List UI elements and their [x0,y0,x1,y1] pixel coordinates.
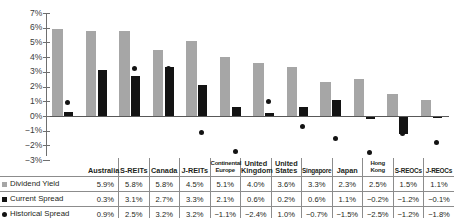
y-axis-tick-mark [43,42,50,43]
table-cell: 3.3% [302,177,333,192]
bar-group [349,0,383,158]
y-axis-tick-labels: 7%6%5%4%3%2%1%0%−1%−2%−3% [12,0,42,158]
values-table: AustraliaS-REITsCanadaJ-REITsContinental… [0,158,454,218]
table-cell: 3.6% [271,177,302,192]
bar-current-spread [299,107,308,116]
table-cell: −1.5% [332,207,363,219]
bar-dividend-yield [253,63,264,116]
table-row: Historical Spread 0.9%2.5%3.2%3.2%−1.1%−… [0,207,454,219]
legend-historical-spread: Historical Spread [0,207,88,219]
y-axis-tick-mark [43,87,50,88]
y-axis-tick-mark [43,101,50,102]
chart-plot-area: 7%6%5%4%3%2%1%0%−1%−2%−3% [0,0,454,158]
series-label: Current Spread [10,195,63,204]
y-axis-tick-label: −1% [16,126,42,135]
table-cell: 5.1% [210,177,241,192]
y-axis-tick-label: 0% [16,112,42,121]
table-cell: 3.3% [180,192,211,207]
table-cell: −0.7% [302,207,333,219]
bar-group [47,0,81,158]
dot-historical-spread [434,140,439,145]
bar-dividend-yield [354,79,365,116]
series-label: Historical Spread [10,210,69,218]
legend-dividend-yield: Dividend Yield [0,177,88,192]
table-cell: −0.2% [363,192,394,207]
y-axis-tick-label: 7% [16,9,42,18]
column-header: Canada [149,158,180,177]
dot-historical-spread [233,149,238,154]
table-cell: −1.2% [393,192,424,207]
bar-group [282,0,316,158]
data-table-panel: AustraliaS-REITsCanadaJ-REITsContinental… [0,158,454,218]
gray-square-icon [2,182,7,187]
column-header: United Kingdom [241,158,272,177]
column-header: Singapore [302,158,333,177]
table-cell: −0.1% [424,192,454,207]
dot-historical-spread [199,130,204,135]
dot-historical-spread [367,150,372,155]
table-cell: −1.2% [393,207,424,219]
table-cell: 2.7% [149,192,180,207]
y-axis-tick-label: 3% [16,67,42,76]
table-cell: 3.2% [180,207,211,219]
table-cell: 0.3% [88,192,119,207]
table-cell: 3.1% [119,192,150,207]
bar-group [181,0,215,158]
column-header: S-REOCs [393,158,424,177]
table-cell: 1.0% [271,207,302,219]
y-axis-tick-mark [43,131,50,132]
table-cell: 0.6% [302,192,333,207]
y-axis-tick-label: 2% [16,82,42,91]
table-header-row: AustraliaS-REITsCanadaJ-REITsContinental… [0,158,454,177]
bar-group [416,0,450,158]
bar-group [148,0,182,158]
bars-region [47,0,449,158]
table-cell: 3.2% [149,207,180,219]
y-axis-tick-mark [43,57,50,58]
table-cell: 2.5% [363,177,394,192]
dot-historical-spread [99,77,104,82]
table-cell: 2.5% [119,207,150,219]
bar-dividend-yield [52,29,63,116]
column-header: J-REOCs [424,158,454,177]
header-corner-blank [0,158,88,177]
bar-group [81,0,115,158]
table-cell: −1.1% [210,207,241,219]
table-cell: 4.0% [241,177,272,192]
y-axis-tick-mark [43,28,50,29]
bar-dividend-yield [320,82,331,116]
dot-historical-spread [400,131,405,136]
dot-historical-spread [132,66,137,71]
column-header: J-REITs [180,158,211,177]
y-axis-tick-label: 1% [16,97,42,106]
table-row: Dividend Yield 5.9%5.8%5.8%4.5%5.1%4.0%3… [0,177,454,192]
y-axis-tick-label: 4% [16,53,42,62]
table-cell: 5.9% [88,177,119,192]
y-axis-tick-mark [43,13,50,14]
dot-historical-spread [333,136,338,141]
bar-current-spread [232,107,241,116]
bar-current-spread [131,76,140,116]
table-row: Current Spread 0.3%3.1%2.7%3.3%2.1%0.6%0… [0,192,454,207]
zero-baseline [47,116,449,117]
legend-current-spread: Current Spread [0,192,88,207]
y-axis-tick-label: 5% [16,38,42,47]
bar-dividend-yield [220,57,231,116]
table-cell: 4.5% [180,177,211,192]
table-cell: 0.2% [271,192,302,207]
table-cell: 5.8% [149,177,180,192]
dot-historical-spread [300,124,305,129]
bar-current-spread [198,85,207,116]
y-axis-tick-mark [43,72,50,73]
black-circle-icon [2,212,7,217]
table-cell: 5.8% [119,177,150,192]
column-header: Australia [88,158,119,177]
series-label: Dividend Yield [10,180,59,189]
y-axis-tick-mark [43,116,50,117]
table-cell: 1.1% [424,177,454,192]
bar-current-spread [165,67,174,116]
bar-group [382,0,416,158]
bar-dividend-yield [287,67,298,116]
y-axis-tick-mark [43,145,50,146]
table-cell: 0.9% [88,207,119,219]
